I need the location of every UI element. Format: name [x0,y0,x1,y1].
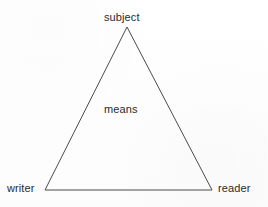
vertex-label-subject: subject [104,11,140,24]
vertex-label-reader: reader [218,182,250,195]
interior-label-means: means [104,103,138,116]
diagram-canvas: subject writer reader means [0,0,268,207]
vertex-label-writer: writer [7,182,35,195]
